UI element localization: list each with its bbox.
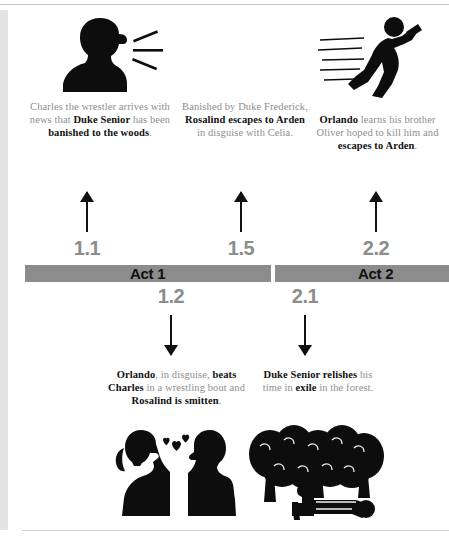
caption-run-bold: Rosalind is smitten	[132, 395, 219, 406]
caption-run: in disguise with Celia.	[197, 127, 293, 138]
caption-run-bold: Orlando	[319, 114, 358, 125]
scene-number-1-1: 1.1	[57, 237, 117, 260]
act-timeline-bar: Act 1 Act 2	[25, 265, 449, 282]
scene-number-2-2: 2.2	[346, 237, 406, 260]
caption-orlando-flees: Orlando learns his brother Oliver hoped …	[310, 113, 445, 153]
arrow-head	[234, 191, 248, 202]
caption-run-bold: Orlando	[117, 369, 156, 380]
shouting-person-icon	[57, 18, 169, 94]
scene-number-2-1: 2.1	[275, 285, 335, 308]
hearts	[163, 435, 189, 451]
arrow-down-scene-2-1	[293, 315, 317, 355]
scene-number-1-2: 1.2	[141, 285, 201, 308]
caption-exile: Duke Senior relishes his time in exile i…	[253, 368, 383, 394]
caption-run-bold: banished to the woods	[48, 127, 149, 138]
arrow-head	[80, 191, 94, 202]
arrow-down-scene-1-2	[159, 315, 183, 355]
caption-rosalind: Banished by Duke Frederick, Rosalind esc…	[180, 100, 310, 140]
caption-run-bold: Rosalind escapes to Arden	[185, 114, 305, 125]
top-divider-rule	[0, 4, 449, 5]
caption-run: .	[415, 140, 418, 151]
arrow-up-scene-1-1	[75, 192, 99, 232]
caption-wrestling: Orlando, in disguise, beats Charles in a…	[104, 368, 249, 408]
scene-number-1-5: 1.5	[211, 237, 271, 260]
bottom-divider-rule	[22, 530, 449, 531]
caption-run: .	[219, 395, 222, 406]
caption-run-bold: exile	[296, 382, 317, 393]
arrow-up-scene-1-5	[229, 192, 253, 232]
timeline-infographic: Charles the wrestler arrives with news t…	[0, 0, 449, 543]
caption-charles: Charles the wrestler arrives with news t…	[20, 100, 180, 140]
left-margin-strip	[0, 10, 8, 530]
caption-run-bold: escapes to Arden	[338, 140, 415, 151]
caption-run: has been	[130, 114, 170, 125]
running-person-icon	[318, 14, 438, 98]
two-people-hearts-icon	[112, 430, 238, 518]
caption-run-bold: Duke Senior relishes	[263, 369, 357, 380]
caption-run: Banished by Duke Frederick,	[182, 101, 308, 112]
act-2-label: Act 2	[358, 265, 393, 282]
caption-run: , in disguise,	[155, 369, 212, 380]
forest-person-resting-icon	[248, 424, 394, 520]
arrow-head	[298, 345, 312, 356]
arrow-head	[164, 345, 178, 356]
caption-run-bold: Duke Senior	[73, 114, 130, 125]
arrow-head	[369, 191, 383, 202]
caption-run: .	[149, 127, 152, 138]
caption-run: in a wrestling bout and	[144, 382, 245, 393]
arrow-up-scene-2-2	[364, 192, 388, 232]
caption-run: in the forest.	[316, 382, 373, 393]
act-1-label: Act 1	[130, 265, 165, 282]
